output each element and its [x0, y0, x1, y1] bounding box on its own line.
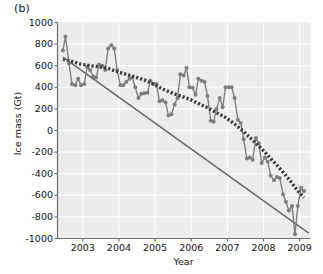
data-point-marker — [281, 192, 285, 196]
data-point-marker — [290, 204, 294, 208]
data-point-marker — [191, 86, 195, 90]
data-point-marker — [88, 68, 92, 72]
data-point-marker — [121, 83, 125, 87]
data-point-marker — [112, 46, 116, 50]
figure-panel-b: (b) Ice mass (Gt) Year 10008006004002000… — [0, 0, 323, 274]
data-point-marker — [299, 186, 303, 190]
data-point-marker — [251, 158, 255, 162]
data-point-marker — [194, 93, 198, 97]
data-point-marker — [260, 161, 264, 165]
data-point-marker — [73, 83, 77, 87]
data-point-marker — [236, 118, 240, 122]
data-point-marker — [182, 73, 186, 77]
data-point-marker — [169, 112, 173, 116]
data-point-marker — [218, 96, 222, 100]
data-point-marker — [124, 80, 128, 84]
data-point-marker — [242, 137, 246, 141]
data-point-marker — [82, 82, 86, 86]
data-point-marker — [63, 35, 67, 39]
data-point-marker — [164, 100, 168, 104]
data-point-marker — [173, 103, 177, 107]
data-point-marker — [106, 46, 110, 50]
data-point-marker — [278, 176, 282, 180]
data-point-marker — [221, 105, 225, 109]
data-point-marker — [109, 43, 113, 47]
data-point-marker — [146, 91, 150, 95]
data-point-marker — [136, 96, 140, 100]
data-point-marker — [196, 77, 200, 81]
data-point-marker — [239, 121, 243, 125]
data-point-marker — [76, 77, 80, 81]
data-point-marker — [263, 156, 267, 160]
data-point-marker — [212, 120, 216, 124]
data-point-marker — [296, 204, 300, 208]
data-point-marker — [254, 136, 258, 140]
data-point-marker — [160, 98, 164, 102]
chart-plot-area — [0, 0, 323, 274]
data-point-marker — [287, 208, 291, 212]
data-point-marker — [205, 94, 209, 98]
data-point-marker — [284, 200, 288, 204]
data-point-marker — [293, 232, 297, 236]
data-point-marker — [230, 85, 234, 89]
data-point-marker — [269, 174, 273, 178]
data-point-marker — [272, 178, 276, 182]
data-point-marker — [133, 85, 137, 89]
data-point-marker — [266, 160, 270, 164]
data-point-marker — [61, 49, 65, 53]
data-point-marker — [302, 189, 306, 193]
data-point-marker — [233, 96, 237, 100]
data-point-marker — [203, 80, 207, 84]
data-point-marker — [185, 66, 189, 70]
